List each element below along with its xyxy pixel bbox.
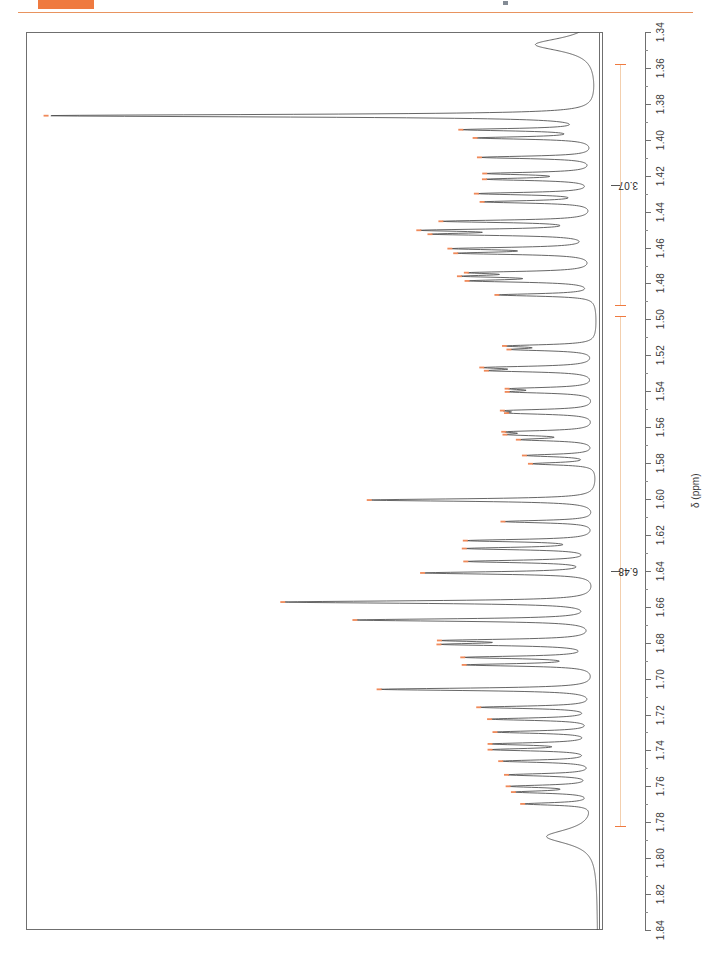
peak-pick-marker xyxy=(506,349,511,351)
page-header xyxy=(0,0,711,26)
peak-pick-marker xyxy=(511,791,516,793)
axis-tick-label: 1.34 xyxy=(655,22,666,42)
chemical-shift-axis: 1.341.361.381.401.421.441.461.481.501.52… xyxy=(645,32,657,930)
axis-tick-minor xyxy=(645,337,648,338)
axis-tick-major xyxy=(645,391,651,392)
axis-tick-minor xyxy=(645,86,648,87)
axis-tick-label: 1.76 xyxy=(655,776,666,796)
peak-pick-marker xyxy=(447,248,452,250)
peak-pick-marker xyxy=(352,619,357,621)
axis-tick-minor xyxy=(645,768,648,769)
axis-tick-major xyxy=(645,463,651,464)
integral-endpoint-cap xyxy=(615,826,626,827)
axis-tick-minor xyxy=(645,481,648,482)
peak-pick-marker xyxy=(280,601,285,603)
peak-pick-marker xyxy=(522,455,527,457)
axis-tick-major xyxy=(645,248,651,249)
axis-tick-minor xyxy=(645,158,648,159)
peak-pick-marker xyxy=(420,572,425,574)
axis-tick-label: 1.82 xyxy=(655,884,666,904)
axis-tick-label: 1.74 xyxy=(655,740,666,760)
peak-pick-marker xyxy=(482,178,487,180)
peak-pick-marker xyxy=(462,664,467,666)
axis-tick-label: 1.66 xyxy=(655,597,666,617)
axis-tick-minor xyxy=(645,625,648,626)
axis-tick-minor xyxy=(645,732,648,733)
axis-tick-label: 1.68 xyxy=(655,632,666,652)
axis-tick-minor xyxy=(645,122,648,123)
axis-tick-major xyxy=(645,68,651,69)
axis-tick-minor xyxy=(645,50,648,51)
axis-tick-major xyxy=(645,176,651,177)
axis-title-label: δ (ppm) xyxy=(690,473,701,507)
peak-pick-marker xyxy=(520,803,525,805)
integral-value-label: 6.48 xyxy=(619,566,638,577)
axis-tick-label: 1.72 xyxy=(655,704,666,724)
peak-pick-marker xyxy=(463,561,468,563)
peak-pick-marker xyxy=(505,388,510,390)
axis-tick-label: 1.70 xyxy=(655,668,666,688)
axis-tick-major xyxy=(645,930,651,931)
axis-tick-major xyxy=(645,679,651,680)
axis-tick-minor xyxy=(645,589,648,590)
axis-tick-minor xyxy=(645,301,648,302)
peak-pick-marker xyxy=(367,499,372,501)
peak-pick-marker xyxy=(504,412,509,414)
axis-tick-major xyxy=(645,607,651,608)
spectrum-curve xyxy=(51,32,598,930)
axis-tick-major xyxy=(645,571,651,572)
axis-tick-label: 1.44 xyxy=(655,201,666,221)
peak-pick-marker xyxy=(437,640,442,642)
peak-pick-marker xyxy=(473,137,478,139)
axis-tick-label: 1.78 xyxy=(655,812,666,832)
axis-tick-label: 1.42 xyxy=(655,166,666,186)
peak-pick-marker xyxy=(458,129,463,131)
axis-tick-label: 1.40 xyxy=(655,130,666,150)
axis-tick-label: 1.50 xyxy=(655,309,666,329)
peak-pick-marker xyxy=(500,410,505,412)
peak-pick-marker xyxy=(464,272,469,274)
axis-tick-minor xyxy=(645,697,648,698)
axis-tick-major xyxy=(645,355,651,356)
axis-tick-major xyxy=(645,499,651,500)
axis-tick-minor xyxy=(645,840,648,841)
axis-tick-minor xyxy=(645,876,648,877)
peak-pick-marker xyxy=(44,115,49,117)
peak-pick-marker xyxy=(462,548,467,550)
axis-tick-minor xyxy=(645,230,648,231)
peak-pick-marker xyxy=(488,743,493,745)
peak-pick-marker xyxy=(416,229,421,231)
peak-pick-marker xyxy=(500,521,505,523)
axis-tick-label: 1.54 xyxy=(655,381,666,401)
peak-pick-marker xyxy=(474,193,479,195)
orange-horizontal-rule xyxy=(18,12,693,13)
axis-tick-label: 1.62 xyxy=(655,525,666,545)
peak-pick-marker xyxy=(377,688,382,690)
axis-tick-major xyxy=(645,140,651,141)
peak-pick-marker xyxy=(457,275,462,277)
axis-tick-major xyxy=(645,786,651,787)
axis-tick-major xyxy=(645,750,651,751)
axis-tick-minor xyxy=(645,912,648,913)
axis-tick-minor xyxy=(645,661,648,662)
axis-tick-label: 1.56 xyxy=(655,417,666,437)
axis-tick-major xyxy=(645,894,651,895)
axis-tick-major xyxy=(645,32,651,33)
peak-pick-marker xyxy=(427,233,432,235)
axis-tick-major xyxy=(645,427,651,428)
peak-pick-marker xyxy=(505,391,510,393)
peak-pick-marker xyxy=(488,749,493,751)
peak-pick-marker xyxy=(506,785,511,787)
integral-value-label: 3.07 xyxy=(619,180,638,191)
axis-tick-minor xyxy=(645,804,648,805)
axis-tick-minor xyxy=(645,445,648,446)
peak-pick-marker xyxy=(465,280,470,282)
peak-pick-marker xyxy=(479,367,484,369)
peak-pick-marker xyxy=(501,431,506,433)
axis-tick-major xyxy=(645,822,651,823)
axis-tick-minor xyxy=(645,517,648,518)
peak-pick-marker xyxy=(498,760,503,762)
peak-pick-marker xyxy=(477,156,482,158)
integral-endpoint-cap xyxy=(615,305,626,306)
peak-pick-marker xyxy=(480,201,485,203)
